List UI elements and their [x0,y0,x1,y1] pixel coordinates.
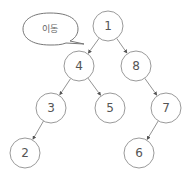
tree-node-2: 2 [10,138,40,168]
node-label: 8 [132,59,140,73]
node-label: 1 [104,19,112,33]
tree-node-8: 8 [121,51,151,81]
node-label: 6 [135,146,143,160]
edge-7-6 [147,121,158,139]
tree-node-6: 6 [124,138,154,168]
edge-1-4 [88,38,99,53]
edge-8-7 [145,78,157,95]
tree-node-7: 7 [151,93,181,123]
callout-bubble: 이동 [23,13,84,45]
tree-node-3: 3 [36,93,66,123]
tree-diagram: 이동 14835726 [0,0,193,176]
tree-node-5: 5 [95,93,125,123]
edge-4-5 [88,78,101,95]
node-label: 3 [47,101,55,115]
tree-node-1: 1 [93,11,123,41]
node-label: 7 [162,101,170,115]
edge-3-2 [33,121,43,139]
node-label: 2 [21,146,29,160]
edge-1-8 [117,38,127,53]
callout-text: 이동 [42,24,58,34]
edge-4-3 [60,78,71,94]
tree-node-4: 4 [64,51,94,81]
node-label: 5 [106,101,114,115]
node-label: 4 [75,59,83,73]
